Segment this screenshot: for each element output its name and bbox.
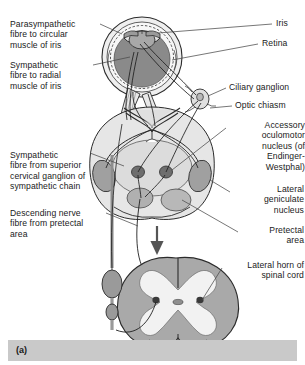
figure-container: Parasympathetic fibre to circular muscle… bbox=[0, 0, 305, 365]
label-optic-chiasm: Optic chiasm bbox=[235, 100, 305, 110]
label-ciliary-ganglion: Ciliary ganglion bbox=[229, 82, 305, 92]
label-lateral-geniculate-nucleus: Lateral geniculate nucleus bbox=[234, 184, 304, 215]
label-descending-nerve-fibre-pretectal: Descending nerve fibre from pretectal ar… bbox=[10, 208, 110, 239]
label-pretectal-area: Pretectal area bbox=[241, 225, 304, 246]
label-sympathetic-fibre-superior-cervical: Sympathetic fibre from superior cervical… bbox=[10, 150, 110, 192]
inferior-cervical-ganglion bbox=[106, 304, 118, 320]
superior-cervical-ganglion bbox=[102, 270, 122, 298]
eye-globe bbox=[102, 17, 182, 97]
label-parasympathetic-fibre-circular: Parasympathetic fibre to circular muscle… bbox=[10, 19, 102, 50]
pretectal-area-right bbox=[161, 189, 191, 211]
caption-label: (a) bbox=[16, 345, 27, 355]
lateral-horn-right bbox=[196, 297, 203, 303]
label-accessory-oculomotor-nucleus: Accessory oculomotor nucleus (of Endinge… bbox=[229, 120, 305, 172]
label-retina: Retina bbox=[262, 38, 304, 48]
label-iris: Iris bbox=[276, 18, 304, 28]
caption-bar bbox=[8, 340, 297, 361]
label-sympathetic-fibre-radial: Sympathetic fibre to radial muscle of ir… bbox=[10, 60, 102, 91]
label-lateral-horn-spinal-cord: Lateral horn of spinal cord bbox=[225, 260, 304, 281]
